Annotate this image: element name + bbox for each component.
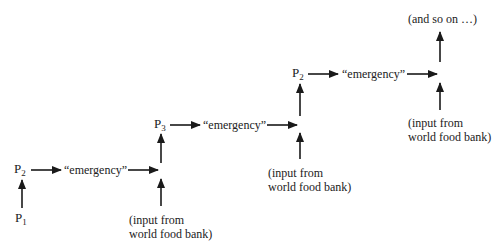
stage3-emergency-label: “emergency” [342, 67, 405, 81]
stage1-input-line1: (input from [129, 213, 212, 227]
stage1-p-subscript: 2 [21, 168, 26, 178]
stage2-p-subscript: 3 [161, 123, 166, 133]
label-stage2-p3: P3 [154, 117, 166, 135]
stage2-input-label: (input from world food bank) [268, 166, 351, 194]
end-label: (and so on …) [408, 12, 477, 26]
stage3-p-subscript: 2 [299, 72, 304, 82]
p1-subscript: 1 [22, 217, 27, 227]
stage1-input-label: (input from world food bank) [129, 213, 212, 241]
label-p1: P1 [15, 211, 27, 229]
label-stage3-p2: P2 [292, 66, 304, 84]
stage1-input-line2: world food bank) [129, 227, 212, 241]
stage1-emergency-label: “emergency” [64, 163, 127, 177]
stage3-input-line1: (input from [408, 116, 491, 130]
stage2-input-line1: (input from [268, 166, 351, 180]
label-stage1-p2: P2 [14, 162, 26, 180]
stage3-input-line2: world food bank) [408, 130, 491, 144]
stage3-input-label: (input from world food bank) [408, 116, 491, 144]
stage2-input-line2: world food bank) [268, 180, 351, 194]
stage2-emergency-label: “emergency” [203, 118, 266, 132]
